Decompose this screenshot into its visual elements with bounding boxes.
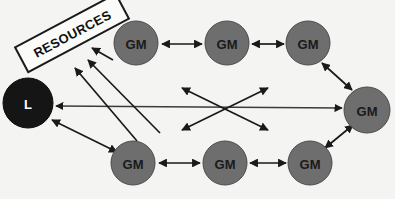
node-gm-bottom-left[interactable]: GM [111,141,155,185]
node-gm-bottom-left-circle[interactable] [111,141,155,185]
diagram-svg: RESOURCES L GM GM GM GM [0,0,395,199]
node-gm-top-left-circle[interactable] [114,21,158,65]
node-gm-bottom-middle-circle[interactable] [203,141,247,185]
node-gm-top-middle[interactable]: GM [205,21,249,65]
node-gm-bottom-right[interactable]: GM [288,141,332,185]
node-gm-top-right[interactable]: GM [286,21,330,65]
node-gm-right[interactable]: GM [344,87,390,133]
node-gm-top-right-circle[interactable] [286,21,330,65]
node-l[interactable]: L [3,78,53,128]
node-gm-top-left[interactable]: GM [114,21,158,65]
node-l-circle[interactable] [3,78,53,128]
node-gm-bottom-middle[interactable]: GM [203,141,247,185]
diagram-canvas: RESOURCES L GM GM GM GM [0,0,395,199]
node-gm-bottom-right-circle[interactable] [288,141,332,185]
node-gm-right-circle[interactable] [344,87,390,133]
node-gm-top-middle-circle[interactable] [205,21,249,65]
